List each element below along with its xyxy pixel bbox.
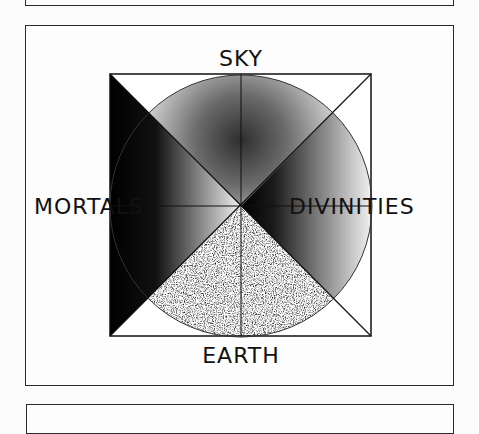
- label-sky: SKY: [219, 46, 263, 71]
- label-mortals: MORTALS: [34, 194, 144, 219]
- label-earth: EARTH: [202, 343, 280, 368]
- next-panel-frame: [26, 404, 454, 434]
- label-divinities: DIVINITIES: [289, 194, 415, 219]
